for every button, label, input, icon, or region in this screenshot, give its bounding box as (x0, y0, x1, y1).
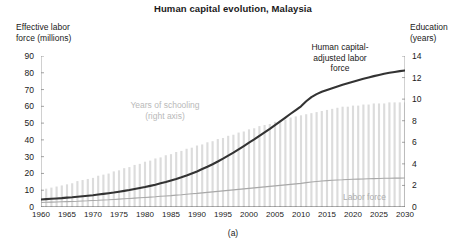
bar-year (243, 132, 245, 208)
bar-year (295, 116, 297, 207)
bar-year (305, 114, 307, 207)
bar-year (284, 120, 286, 207)
bar-year (222, 138, 224, 207)
left-axis-tick-label: 80 (12, 69, 34, 78)
plot-area (41, 56, 405, 207)
bar-year (274, 122, 276, 207)
left-axis-tick-label: 20 (12, 169, 34, 178)
x-axis-tick-label: 1980 (136, 211, 154, 219)
x-axis-tick-label: 2020 (344, 211, 362, 219)
bar-year (76, 181, 78, 207)
left-axis-tick-label: 0 (12, 203, 34, 212)
right-axis-tick-label: 14 (412, 52, 434, 61)
bar-year (232, 135, 234, 207)
right-axis-tick-label: 2 (412, 181, 434, 190)
panel-caption: (a) (0, 228, 466, 238)
bar-year (279, 121, 281, 207)
right-axis-tick-label: 8 (412, 117, 434, 126)
left-axis-tick-label: 90 (12, 52, 34, 61)
right-axis-tick-label: 0 (412, 203, 434, 212)
x-axis-tick-label: 1995 (214, 211, 232, 219)
x-axis-tick-label: 1975 (110, 211, 128, 219)
chart-title: Human capital evolution, Malaysia (0, 3, 466, 14)
annotation-labor-force: Labor force (343, 192, 423, 203)
bar-year (310, 113, 312, 207)
bar-year (61, 185, 63, 207)
bar-year (238, 133, 240, 207)
bar-year (45, 189, 47, 207)
right-axis-tick-label: 6 (412, 138, 434, 147)
bar-year (108, 174, 110, 207)
x-axis-tick-labels: 1960196519701975198019851990199520002005… (41, 211, 405, 225)
bar-year (50, 188, 52, 207)
x-axis-tick-label: 2030 (396, 211, 414, 219)
right-axis-tick-labels: 14121086420 (412, 56, 434, 207)
bar-year (97, 176, 99, 207)
left-axis-tick-labels: 9080706050403020100 (12, 56, 34, 207)
bar-year (149, 161, 151, 207)
bar-year (248, 129, 250, 207)
bar-year (300, 115, 302, 207)
bar-year (180, 151, 182, 207)
bar-year (290, 117, 292, 207)
annotation-hc-adjusted-labor-force: Human capital- adjusted labor force (288, 42, 392, 74)
bar-year (217, 139, 219, 207)
bar-year (139, 164, 141, 207)
bar-year (118, 170, 120, 207)
bar-year (227, 136, 229, 207)
bar-year (134, 165, 136, 207)
annotation-years-of-schooling: Years of schooling (right axis) (104, 100, 226, 121)
x-axis-tick-label: 2000 (240, 211, 258, 219)
left-axis-tick-label: 50 (12, 119, 34, 128)
x-axis-tick-label: 1970 (84, 211, 102, 219)
right-axis-tick-label: 10 (412, 95, 434, 104)
x-axis-tick-label: 1985 (162, 211, 180, 219)
x-axis-tick-label: 2005 (266, 211, 284, 219)
bar-year (82, 180, 84, 207)
x-axis-tick-label: 1960 (32, 211, 50, 219)
right-axis-title: Education (years) (410, 22, 448, 43)
left-axis-tick-label: 40 (12, 136, 34, 145)
bar-year (123, 168, 125, 207)
figure-panel: Human capital evolution, Malaysia Effect… (0, 0, 466, 244)
bar-year (154, 158, 156, 207)
bar-year (128, 167, 130, 207)
bar-year (113, 171, 115, 207)
bar-year (102, 175, 104, 207)
left-axis-tick-label: 70 (12, 86, 34, 95)
right-axis-tick-label: 4 (412, 160, 434, 169)
bar-year (264, 125, 266, 207)
x-axis-tick-label: 2025 (370, 211, 388, 219)
left-axis-tick-label: 30 (12, 153, 34, 162)
bar-year (144, 162, 146, 207)
bar-year (71, 183, 73, 207)
bar-year (331, 109, 333, 207)
bar-year (336, 108, 338, 207)
bar-year (269, 124, 271, 207)
bar-year (92, 178, 94, 207)
bar-year (196, 146, 198, 207)
x-axis-tick-label: 1965 (58, 211, 76, 219)
bar-year (66, 184, 68, 207)
left-axis-title: Effective labor force (millions) (16, 22, 71, 43)
x-axis-tick-label: 2010 (292, 211, 310, 219)
bar-year (56, 187, 58, 207)
left-axis-tick-label: 10 (12, 186, 34, 195)
bar-year (258, 126, 260, 207)
bar-year (321, 111, 323, 207)
bar-year (326, 110, 328, 207)
bar-year (316, 112, 318, 207)
bar-year (206, 142, 208, 207)
left-axis-tick-label: 60 (12, 102, 34, 111)
x-axis-tick-label: 1990 (188, 211, 206, 219)
bar-year (201, 144, 203, 207)
right-axis-tick-label: 12 (412, 74, 434, 83)
chart-canvas (41, 56, 405, 207)
bar-year (186, 149, 188, 207)
bar-year (212, 141, 214, 207)
bar-year (87, 179, 89, 207)
bar-year (191, 148, 193, 207)
x-axis-tick-label: 2015 (318, 211, 336, 219)
